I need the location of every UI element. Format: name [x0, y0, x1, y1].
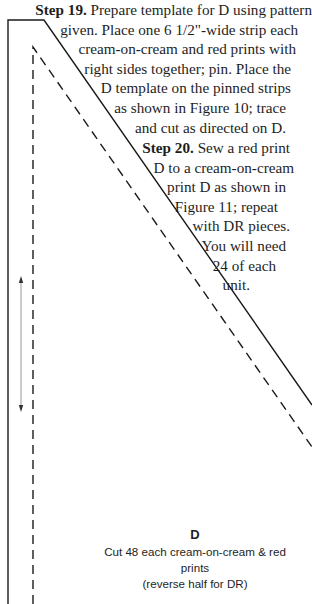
step-19-line-2: given. Place one 6 1/2"-wide strip each — [35, 20, 312, 40]
step-19-heading: Step 19. — [35, 1, 86, 18]
grainline-arrow-icon — [19, 276, 23, 412]
template-cut-instructions: Cut 48 each cream-on-cream & red prints … — [92, 544, 298, 592]
step-20-line-8: unit. — [142, 275, 312, 295]
step-19-line-7: and cut as directed on D. — [35, 118, 312, 138]
step-20-heading: Step 20. — [142, 139, 193, 156]
step-20-line-6: You will need — [142, 236, 312, 256]
cut-instruction-line-2: (reverse half for DR) — [142, 577, 247, 590]
step-20-line-1: Step 20. Sew a red print — [142, 138, 312, 158]
step-20-instructions: Step 20. Sew a red print D to a cream-on… — [142, 138, 312, 295]
step-20-line-3: print D as shown in — [142, 177, 312, 197]
step-19-line-4: right sides together; pin. Place the — [35, 59, 312, 79]
step-19-line-3: cream-on-cream and red prints with — [35, 39, 312, 59]
step-20-line-7: 24 of each — [142, 256, 312, 276]
step-19-line-5: D template on the pinned strips — [35, 78, 312, 98]
step-19-instructions: Step 19. Prepare template for D using pa… — [35, 0, 312, 137]
step-20-line-2: D to a cream-on-cream — [142, 158, 312, 178]
cut-instruction-line-1: Cut 48 each cream-on-cream & red prints — [104, 545, 286, 574]
step-19-line-6: as shown in Figure 10; trace — [35, 98, 312, 118]
template-piece-label: D — [92, 528, 298, 542]
step-20-line-5: with DR pieces. — [142, 216, 312, 236]
step-19-line-1: Step 19. Prepare template for D using pa… — [35, 0, 312, 20]
step-20-line-4: Figure 11; repeat — [142, 197, 312, 217]
